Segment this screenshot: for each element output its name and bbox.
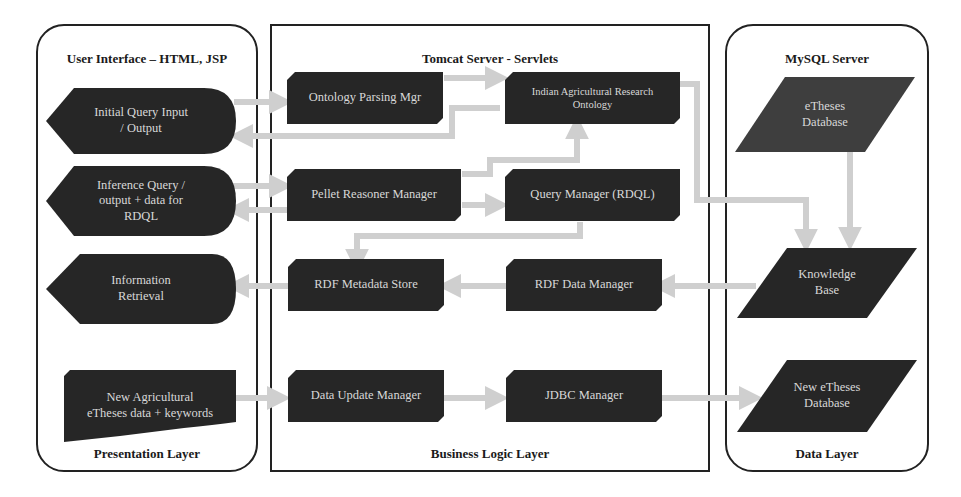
jdbc-manager-label: JDBC Manager [539,388,629,404]
knowledge-base-label: Knowledge Base [792,267,862,298]
data-layer-title: MySQL Server [727,51,927,67]
initial-query-label: Initial Query Input / Output [88,105,194,136]
query-manager-node: Query Manager (RDQL) [505,169,680,221]
inference-query-label: Inference Query / output + data for RDQL [91,178,191,225]
new-etheses-database-label: New eTheses Database [788,380,867,411]
jdbc-manager-node: JDBC Manager [506,370,662,422]
rdf-metadata-store-label: RDF Metadata Store [308,277,423,293]
etheses-database-node: eTheses Database [735,77,915,152]
business-layer-footer: Business Logic Layer [272,446,708,462]
presentation-layer-footer: Presentation Layer [38,446,256,462]
rdf-data-manager-label: RDF Data Manager [529,277,640,293]
ontology-parsing-label: Ontology Parsing Mgr [303,90,428,106]
new-etheses-database-node: New eTheses Database [737,360,917,432]
information-retrieval-node: Information Retrieval [46,254,236,324]
data-update-manager-label: Data Update Manager [305,388,427,404]
query-manager-label: Query Manager (RDQL) [524,187,660,203]
pellet-reasoner-label: Pellet Reasoner Manager [305,187,443,203]
iar-ontology-label: Indian Agricultural Research Ontology [526,85,659,111]
new-agricultural-data-node: New Agricultural eTheses data + keywords [64,370,236,442]
inference-query-node: Inference Query / output + data for RDQL [46,166,236,236]
ontology-parsing-node: Ontology Parsing Mgr [287,72,443,124]
etheses-database-label: eTheses Database [796,99,854,130]
pellet-reasoner-node: Pellet Reasoner Manager [287,169,461,221]
data-update-manager-node: Data Update Manager [288,370,444,422]
initial-query-node: Initial Query Input / Output [46,88,236,154]
presentation-layer-title: User Interface – HTML, JSP [38,51,256,67]
new-agricultural-data-label: New Agricultural eTheses data + keywords [81,390,219,421]
iar-ontology-node: Indian Agricultural Research Ontology [505,72,680,124]
business-layer-title: Tomcat Server - Servlets [272,51,708,67]
rdf-metadata-store-node: RDF Metadata Store [288,259,444,311]
data-layer-footer: Data Layer [727,446,927,462]
information-retrieval-label: Information Retrieval [105,273,177,304]
knowledge-base-node: Knowledge Base [737,248,917,318]
rdf-data-manager-node: RDF Data Manager [506,259,662,311]
